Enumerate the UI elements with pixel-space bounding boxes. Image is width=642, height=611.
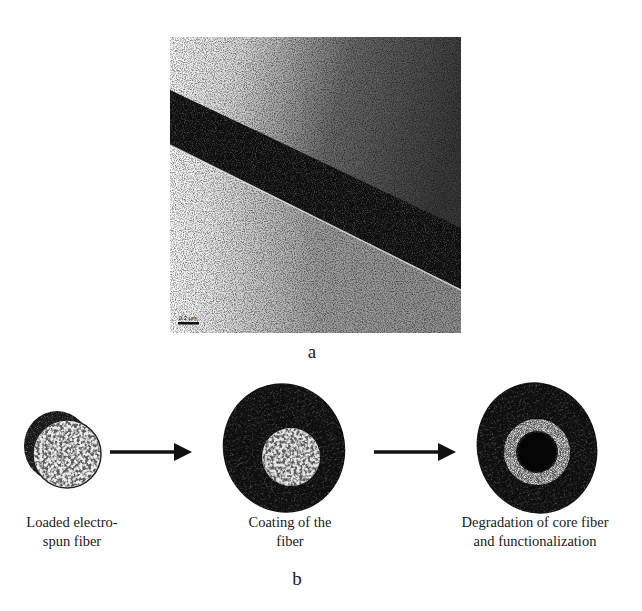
process-schematic (0, 370, 642, 530)
caption-line: Coating of the (225, 513, 355, 532)
caption-step-2: Coating of the fiber (225, 513, 355, 551)
loaded-fiber-icon (24, 411, 101, 488)
arrow-right-icon (110, 443, 192, 461)
arrow-right-icon (374, 443, 456, 461)
panel-label-b: b (282, 569, 312, 588)
caption-line: and functionalization (445, 532, 625, 551)
caption-line: Degradation of core fiber (445, 513, 625, 532)
panel-label-a: a (297, 342, 327, 361)
functionalized-fiber-icon (462, 370, 612, 527)
caption-step-3: Degradation of core fiber and functional… (445, 513, 625, 551)
scale-bar-label: 0.2 μm (179, 315, 197, 321)
scale-bar: 0.2 μm (178, 315, 199, 325)
caption-line: Loaded electro- (12, 513, 132, 532)
tem-micrograph: 0.2 μm (170, 37, 461, 333)
coated-fiber-icon (208, 370, 359, 527)
caption-step-1: Loaded electro- spun fiber (12, 513, 132, 551)
caption-line: spun fiber (12, 532, 132, 551)
caption-line: fiber (225, 532, 355, 551)
